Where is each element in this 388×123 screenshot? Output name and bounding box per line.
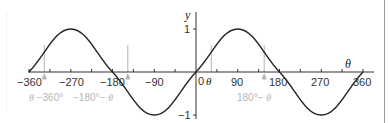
y-tick-label-neg1: −1 xyxy=(178,109,191,121)
arrow-up-icon xyxy=(262,74,266,79)
x-tick-label: 180 xyxy=(269,76,287,88)
x-tick-label: −180 xyxy=(100,76,125,88)
annotation-text: −180°− xyxy=(73,92,108,103)
y-tick-label-1: 1 xyxy=(184,23,190,35)
x-tick-label: −90 xyxy=(145,76,164,88)
x-axis-label: θ xyxy=(345,57,351,71)
annotation-label-180-minus-theta: 180°− θ xyxy=(237,92,271,103)
x-tick-label: −360 xyxy=(17,76,42,88)
sine-graph: y θ 1 −1 0 −360 −270 −180 −90 90 180 270… xyxy=(0,0,388,123)
annotation-label-theta-minus-360: θ −360° xyxy=(29,92,63,103)
origin-label: 0 xyxy=(198,75,204,87)
annotation-text: 180°− xyxy=(237,92,266,103)
x-tick-label: −270 xyxy=(59,76,84,88)
y-axis-label: y xyxy=(184,8,191,22)
theta-marker-label: θ xyxy=(206,75,212,87)
annotation-label-neg180-minus-theta: −180°− θ xyxy=(73,92,113,103)
x-tick-label: 90 xyxy=(231,76,243,88)
annotation-lines xyxy=(42,45,266,79)
theta-symbol: θ xyxy=(108,92,113,103)
theta-symbol: θ xyxy=(266,92,271,103)
arrow-up-icon xyxy=(126,74,130,79)
x-tick-label: 270 xyxy=(311,76,329,88)
arrow-up-icon xyxy=(42,74,46,79)
x-tick-label: 360 xyxy=(353,76,371,88)
annotation-text: −360° xyxy=(34,92,63,103)
